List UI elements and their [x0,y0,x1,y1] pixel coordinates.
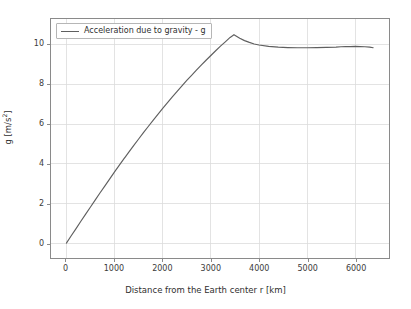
x-tick-mark [259,259,260,262]
y-tick-mark [47,204,50,205]
y-tick-mark [47,44,50,45]
x-tick-mark [211,259,212,262]
legend-line-swatch [61,31,79,32]
figure-canvas: 0100020003000400050006000 0246810 Distan… [0,0,411,309]
y-tick-label: 4 [20,159,44,169]
horizontal-gridlines [51,45,389,243]
x-tick-label: 3000 [201,264,221,274]
x-tick-label: 1000 [104,264,124,274]
y-tick-label: 2 [20,199,44,209]
x-tick-mark [162,259,163,262]
x-tick-mark [308,259,309,262]
chart-legend[interactable]: Acceleration due to gravity - g [56,23,212,39]
y-tick-mark [47,124,50,125]
x-tick-label: 4000 [249,264,269,274]
x-tick-mark [356,259,357,262]
y-tick-mark [47,84,50,85]
x-axis-label: Distance from the Earth center r [km] [0,285,411,296]
y-axis-label-suffix: ] [3,110,13,113]
y-tick-label: 10 [20,39,44,49]
x-tick-label: 5000 [297,264,317,274]
y-tick-label: 8 [20,79,44,89]
y-axis-label: g [m/s2] [3,98,14,158]
legend-entry-label: Acceleration due to gravity - g [84,26,206,36]
y-axis-label-prefix: g [m/s [3,118,13,145]
y-tick-mark [47,164,50,165]
x-tick-mark [65,259,66,262]
x-tick-mark [114,259,115,262]
gravity-curve [66,35,373,243]
x-tick-label: 0 [63,264,68,274]
chart-plot-svg [51,19,389,258]
x-tick-label: 6000 [346,264,366,274]
y-axis-label-exponent: 2 [1,114,8,118]
x-tick-label: 2000 [152,264,172,274]
y-tick-label: 6 [20,119,44,129]
y-tick-mark [47,244,50,245]
y-tick-label: 0 [20,239,44,249]
plot-axes-area [50,18,390,259]
